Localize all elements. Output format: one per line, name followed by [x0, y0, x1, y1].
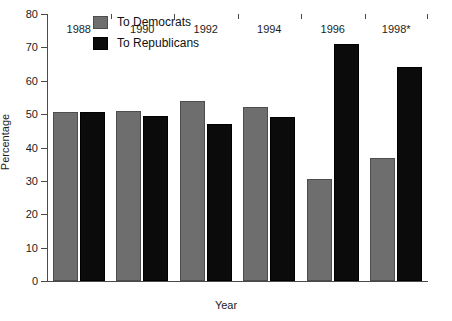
y-axis-tick	[41, 248, 47, 249]
plot-area: 0102030405060708019881990199219941996199…	[47, 14, 428, 281]
bar-1992-republicans	[207, 124, 232, 281]
x-axis-tick	[365, 14, 366, 19]
y-axis-tick-label: 80	[26, 8, 38, 20]
x-axis-tick	[111, 14, 112, 19]
x-axis-tick	[174, 14, 175, 19]
x-axis-tick-label: 1990	[130, 23, 154, 35]
y-axis-tick	[41, 148, 47, 149]
y-axis-tick	[41, 47, 47, 48]
bar-1990-democrats	[116, 111, 141, 281]
x-axis-tick	[238, 14, 239, 19]
bar-1998-republicans	[397, 67, 422, 281]
chart-figure: To Democrats To Republicans 010203040506…	[0, 0, 452, 321]
y-axis-tick-label: 10	[26, 242, 38, 254]
bar-1990-republicans	[143, 116, 168, 281]
x-axis-tick-label: 1994	[257, 23, 281, 35]
bar-1998-democrats	[370, 158, 395, 281]
x-axis-tick-label: 1988	[67, 23, 91, 35]
bar-1988-republicans	[80, 112, 105, 281]
x-axis-tick	[301, 14, 302, 19]
bar-1996-republicans	[334, 44, 359, 281]
y-axis-label: Percentage	[0, 114, 11, 170]
y-axis-tick	[41, 114, 47, 115]
x-axis-tick-label: 1996	[321, 23, 345, 35]
bar-1992-democrats	[180, 101, 205, 281]
y-axis-tick-label: 0	[32, 275, 38, 287]
y-axis-tick	[41, 181, 47, 182]
figure-caption	[40, 312, 452, 321]
bar-1994-republicans	[270, 117, 295, 281]
y-axis-tick	[41, 81, 47, 82]
x-axis-label: Year	[0, 299, 452, 311]
y-axis-tick-label: 30	[26, 175, 38, 187]
y-axis-tick	[41, 214, 47, 215]
x-axis-line	[47, 281, 428, 282]
x-axis-tick	[47, 14, 48, 19]
y-axis-tick-label: 60	[26, 75, 38, 87]
x-axis-tick	[427, 14, 428, 19]
y-axis-tick-label: 40	[26, 142, 38, 154]
y-axis-tick-label: 50	[26, 108, 38, 120]
bar-1994-democrats	[243, 107, 268, 281]
bar-1996-democrats	[307, 179, 332, 281]
x-axis-tick-label: 1998*	[382, 23, 411, 35]
y-axis-tick-label: 20	[26, 208, 38, 220]
bar-1988-democrats	[53, 112, 78, 281]
x-axis-tick-label: 1992	[194, 23, 218, 35]
y-axis-tick-label: 70	[26, 41, 38, 53]
y-axis-tick	[41, 281, 47, 282]
